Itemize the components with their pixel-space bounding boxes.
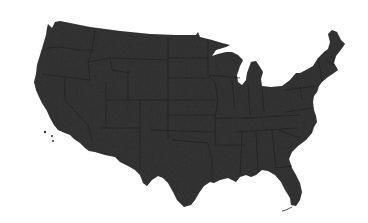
channel-islands bbox=[44, 131, 54, 142]
us-map-graphic bbox=[0, 0, 368, 223]
us-landmass bbox=[34, 21, 345, 207]
florida-keys bbox=[282, 207, 292, 211]
us-map bbox=[0, 0, 368, 223]
